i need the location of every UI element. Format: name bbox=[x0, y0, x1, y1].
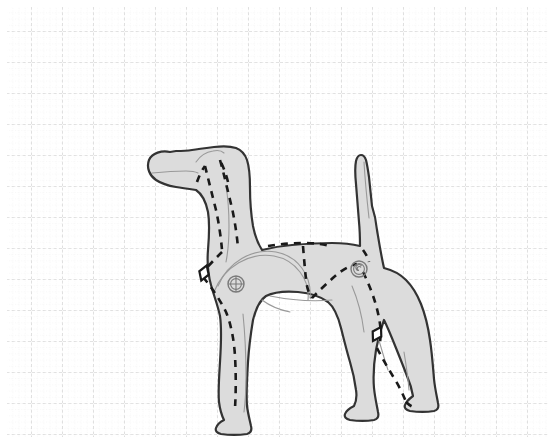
dog-body-outline[interactable] bbox=[148, 146, 438, 434]
diagram-canvas bbox=[0, 0, 555, 444]
chest-line bbox=[262, 300, 290, 312]
shoulder-joint-marker[interactable] bbox=[228, 276, 244, 292]
dog-figure-layer bbox=[0, 0, 555, 444]
dog-body-group[interactable] bbox=[148, 146, 438, 434]
